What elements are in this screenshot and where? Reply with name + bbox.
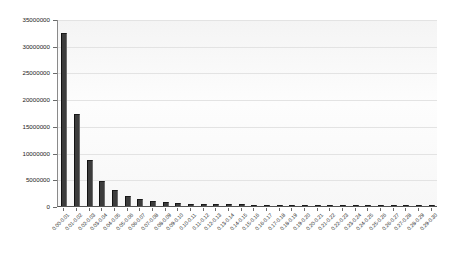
bar — [340, 205, 346, 206]
x-tick-mark — [418, 208, 419, 211]
bar — [213, 204, 219, 206]
x-tick-mark — [228, 208, 229, 211]
x-tick-mark — [355, 208, 356, 211]
x-tick-mark — [152, 208, 153, 211]
y-tick-mark — [53, 180, 57, 181]
bar — [365, 205, 371, 206]
y-tick-mark — [53, 47, 57, 48]
y-tick-mark — [53, 127, 57, 128]
x-tick-mark — [76, 208, 77, 211]
bar — [163, 202, 169, 206]
x-tick-mark — [63, 208, 64, 211]
gridline — [58, 180, 437, 181]
bar — [188, 204, 194, 207]
x-tick-mark — [165, 208, 166, 211]
bar — [315, 205, 321, 206]
y-tick-mark — [53, 73, 57, 74]
gridline — [58, 100, 437, 101]
bar — [289, 205, 295, 206]
x-tick-mark — [367, 208, 368, 211]
x-tick-mark — [291, 208, 292, 211]
gridline — [58, 20, 437, 21]
bar — [87, 160, 93, 206]
y-tick-label: 0 — [0, 203, 50, 210]
plot-background — [58, 20, 437, 206]
bar — [391, 205, 397, 206]
bar — [201, 204, 207, 206]
bar-chart: 0500000010000000150000002000000025000000… — [0, 0, 449, 267]
x-tick-mark — [253, 208, 254, 211]
x-tick-mark — [89, 208, 90, 211]
bar — [264, 205, 270, 206]
y-tick-label: 25000000 — [0, 69, 50, 76]
y-tick-mark — [53, 20, 57, 21]
y-tick-label: 15000000 — [0, 123, 50, 130]
bar — [226, 204, 232, 206]
bar — [429, 205, 435, 206]
bar — [99, 181, 105, 206]
bar — [378, 205, 384, 206]
bar — [403, 205, 409, 206]
gridline — [58, 154, 437, 155]
gridline — [58, 47, 437, 48]
gridline — [58, 73, 437, 74]
x-tick-mark — [215, 208, 216, 211]
x-tick-mark — [241, 208, 242, 211]
bar — [112, 190, 118, 206]
x-tick-mark — [279, 208, 280, 211]
x-tick-mark — [127, 208, 128, 211]
x-tick-mark — [266, 208, 267, 211]
x-tick-mark — [329, 208, 330, 211]
y-tick-label: 35000000 — [0, 16, 50, 23]
x-tick-mark — [190, 208, 191, 211]
x-tick-mark — [380, 208, 381, 211]
bar — [74, 114, 80, 206]
x-tick-mark — [114, 208, 115, 211]
x-tick-mark — [431, 208, 432, 211]
x-tick-mark — [317, 208, 318, 211]
bar — [137, 199, 143, 206]
x-tick-mark — [405, 208, 406, 211]
x-tick-mark — [304, 208, 305, 211]
x-tick-mark — [393, 208, 394, 211]
bar — [327, 205, 333, 206]
bar — [125, 196, 131, 206]
y-tick-label: 20000000 — [0, 96, 50, 103]
x-tick-mark — [342, 208, 343, 211]
y-tick-label: 30000000 — [0, 43, 50, 50]
bar — [239, 204, 245, 206]
bar — [175, 203, 181, 206]
y-tick-mark — [53, 100, 57, 101]
x-tick-mark — [203, 208, 204, 211]
y-tick-label: 10000000 — [0, 150, 50, 157]
x-tick-mark — [101, 208, 102, 211]
x-tick-mark — [177, 208, 178, 211]
y-tick-mark — [53, 154, 57, 155]
bar — [251, 205, 257, 206]
gridline — [58, 127, 437, 128]
plot-area — [57, 20, 437, 207]
bar — [277, 205, 283, 206]
bar — [353, 205, 359, 206]
bar — [61, 33, 67, 206]
y-tick-label: 5000000 — [0, 176, 50, 183]
bar — [416, 205, 422, 206]
x-tick-mark — [139, 208, 140, 211]
bar — [150, 201, 156, 206]
y-tick-mark — [53, 207, 57, 208]
bar — [302, 205, 308, 206]
